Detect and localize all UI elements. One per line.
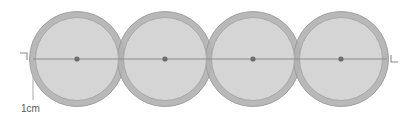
ring-1-centre-dot	[74, 56, 79, 61]
dimension-label: 1cm	[21, 103, 40, 114]
left-corner-bracket-icon	[20, 53, 27, 60]
rings-diagram: 1cm	[0, 0, 415, 117]
diagram-canvas: 1cm	[0, 0, 415, 117]
ring-2-centre-dot	[162, 56, 167, 61]
ring-3-centre-dot	[250, 56, 255, 61]
ring-4-centre-dot	[338, 56, 343, 61]
right-corner-bracket-icon	[391, 55, 398, 62]
